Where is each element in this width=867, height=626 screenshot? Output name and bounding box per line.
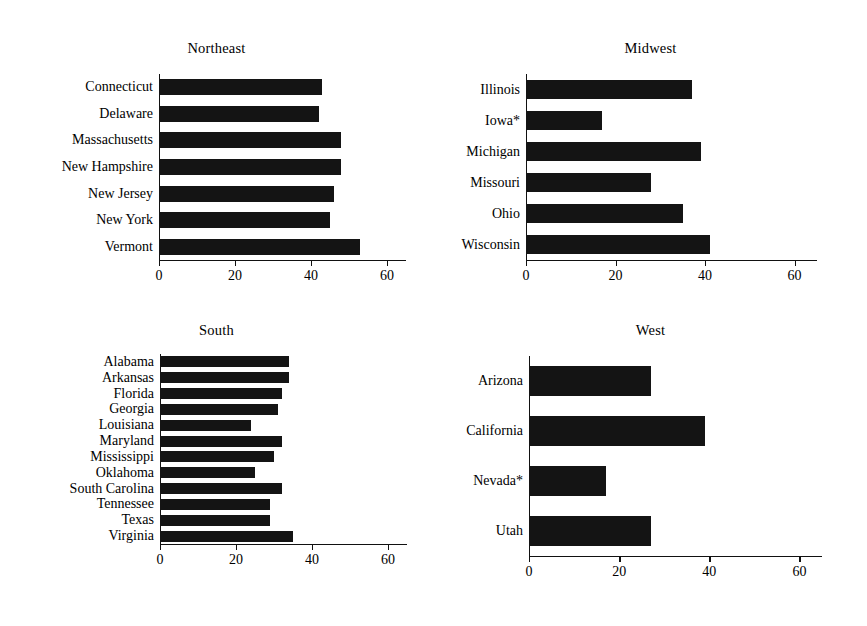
bar-row: New Hampshire xyxy=(159,154,406,181)
panel-midwest: Midwest0204060IllinoisIowa*MichiganMisso… xyxy=(434,40,867,320)
category-label: Massachusetts xyxy=(72,132,153,148)
bar-row: South Carolina xyxy=(160,481,407,497)
category-label: New Jersey xyxy=(88,186,153,202)
value-axis-line xyxy=(526,260,817,261)
category-label: Connecticut xyxy=(85,79,153,95)
bar xyxy=(529,466,606,496)
bar xyxy=(160,531,293,542)
bar-row: Arizona xyxy=(529,356,822,406)
bar xyxy=(160,404,278,415)
axis-tick xyxy=(529,557,530,562)
bar xyxy=(529,416,705,446)
bar-row: Delaware xyxy=(159,101,406,128)
category-label: New York xyxy=(96,212,153,228)
axis-tick-label: 60 xyxy=(792,564,806,580)
axis-tick xyxy=(387,261,388,266)
axis-tick xyxy=(160,545,161,550)
bar xyxy=(160,436,282,447)
bar xyxy=(526,173,651,192)
category-label: Nevada* xyxy=(473,473,523,489)
axis-tick xyxy=(526,261,527,266)
category-label: Missouri xyxy=(470,175,520,191)
axis-tick-label: 40 xyxy=(702,564,716,580)
category-label: Texas xyxy=(122,512,154,528)
bar xyxy=(160,515,270,526)
axis-tick xyxy=(795,261,796,266)
bar-row: Tennessee xyxy=(160,497,407,513)
bar xyxy=(526,111,602,130)
bar-row: Wisconsin xyxy=(526,229,817,260)
category-label: Arizona xyxy=(478,373,523,389)
panel-west: West0204060ArizonaCaliforniaNevada*Utah xyxy=(434,322,867,622)
axis-tick-label: 60 xyxy=(380,268,394,284)
plot-area: 0204060ConnecticutDelawareMassachusettsN… xyxy=(159,74,406,260)
bar xyxy=(160,356,289,367)
axis-tick xyxy=(705,261,706,266)
bar-row: Iowa* xyxy=(526,105,817,136)
category-label: Michigan xyxy=(466,144,520,160)
axis-tick-label: 20 xyxy=(228,268,242,284)
bar xyxy=(159,132,341,148)
axis-tick xyxy=(235,261,236,266)
bar-row: Mississippi xyxy=(160,449,407,465)
bar xyxy=(160,467,255,478)
axis-tick xyxy=(236,545,237,550)
category-label: Arkansas xyxy=(102,370,154,386)
bar-row: Missouri xyxy=(526,167,817,198)
bar-row: New Jersey xyxy=(159,180,406,207)
bar-row: Nevada* xyxy=(529,456,822,506)
category-label: Iowa* xyxy=(485,113,520,129)
bar-row: Maryland xyxy=(160,433,407,449)
axis-tick-label: 60 xyxy=(788,268,802,284)
bar xyxy=(159,212,330,228)
axis-tick-label: 20 xyxy=(229,552,243,568)
category-label: Illinois xyxy=(480,82,520,98)
bar xyxy=(529,516,651,546)
bar xyxy=(160,451,274,462)
axis-tick-label: 0 xyxy=(526,564,533,580)
category-label: Mississippi xyxy=(90,449,154,465)
category-label: Virginia xyxy=(108,528,154,544)
bar xyxy=(526,80,692,99)
category-label: Florida xyxy=(114,386,154,402)
bar xyxy=(526,235,710,254)
bar-row: Connecticut xyxy=(159,74,406,101)
panel-northeast: Northeast0204060ConnecticutDelawareMassa… xyxy=(0,40,433,320)
category-label: South Carolina xyxy=(70,481,154,497)
bar xyxy=(160,388,282,399)
category-label: Tennessee xyxy=(97,496,154,512)
panel-south: South0204060AlabamaArkansasFloridaGeorgi… xyxy=(0,322,433,622)
bar xyxy=(159,186,334,202)
value-axis-line xyxy=(159,260,406,261)
bar-row: Illinois xyxy=(526,74,817,105)
bar xyxy=(160,420,251,431)
bar xyxy=(159,159,341,175)
panel-title: West xyxy=(434,322,867,339)
bar-row: Utah xyxy=(529,506,822,556)
axis-tick xyxy=(709,557,710,562)
value-axis-line xyxy=(529,556,822,557)
bar xyxy=(160,499,270,510)
axis-tick-label: 0 xyxy=(156,268,163,284)
bar xyxy=(160,372,289,383)
bar xyxy=(159,79,322,95)
bar-row: Massachusetts xyxy=(159,127,406,154)
axis-tick-label: 60 xyxy=(381,552,395,568)
category-label: New Hampshire xyxy=(62,159,153,175)
panel-title: South xyxy=(0,322,433,339)
axis-tick xyxy=(616,261,617,266)
category-label: Georgia xyxy=(109,401,154,417)
category-label: Ohio xyxy=(492,206,520,222)
bar-row: Michigan xyxy=(526,136,817,167)
bar-row: California xyxy=(529,406,822,456)
axis-tick-label: 40 xyxy=(698,268,712,284)
plot-area: 0204060ArizonaCaliforniaNevada*Utah xyxy=(529,356,822,556)
bar-row: New York xyxy=(159,207,406,234)
plot-area: 0204060AlabamaArkansasFloridaGeorgiaLoui… xyxy=(160,354,407,544)
bar-row: Alabama xyxy=(160,354,407,370)
axis-tick-label: 20 xyxy=(609,268,623,284)
axis-tick xyxy=(159,261,160,266)
category-label: California xyxy=(466,423,523,439)
axis-tick xyxy=(312,545,313,550)
bar-row: Arkansas xyxy=(160,370,407,386)
